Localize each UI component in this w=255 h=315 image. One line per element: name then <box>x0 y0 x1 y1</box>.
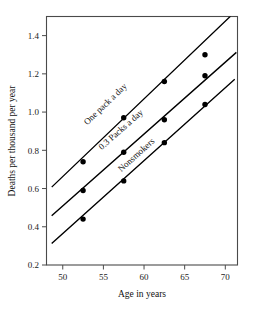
data-point <box>202 73 207 78</box>
data-point <box>121 178 126 183</box>
y-tick-label: 0.2 <box>28 260 39 270</box>
y-tick-label: 0.6 <box>28 184 40 194</box>
chart-container: 5055606570 0.20.40.60.81.01.21.4 One pac… <box>0 0 255 315</box>
x-axis-title: Age in years <box>118 289 166 299</box>
data-point <box>162 140 167 145</box>
x-tick-label: 60 <box>140 272 150 282</box>
mortality-vs-age-scatter-chart: 5055606570 0.20.40.60.81.01.21.4 One pac… <box>0 0 255 315</box>
data-point <box>162 79 167 84</box>
data-point <box>80 216 85 221</box>
y-tick-label: 1.0 <box>28 107 40 117</box>
y-tick-label: 0.8 <box>28 146 40 156</box>
data-point <box>121 150 126 155</box>
data-point <box>80 159 85 164</box>
x-tick-label: 70 <box>221 272 231 282</box>
data-point <box>202 102 207 107</box>
y-tick-label: 0.4 <box>28 222 40 232</box>
data-point <box>80 188 85 193</box>
data-point <box>202 52 207 57</box>
y-tick-label: 1.4 <box>28 31 40 41</box>
x-tick-label: 50 <box>58 272 68 282</box>
data-point <box>162 117 167 122</box>
y-axis-title: Deaths per thousand per year <box>7 85 17 197</box>
x-tick-label: 65 <box>180 272 190 282</box>
y-tick-label: 1.2 <box>28 69 39 79</box>
x-tick-label: 55 <box>99 272 109 282</box>
